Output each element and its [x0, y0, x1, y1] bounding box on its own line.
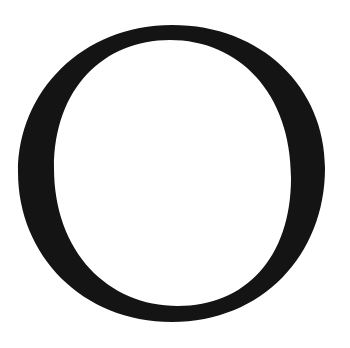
- letter-o-shape: [0, 0, 350, 348]
